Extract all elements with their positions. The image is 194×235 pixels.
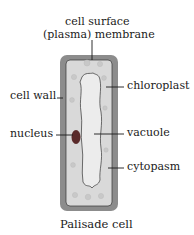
- cell-wall-label: cell wall: [10, 90, 56, 102]
- membrane-label-line1: cell surface: [65, 16, 130, 28]
- vacuole-shape: [80, 73, 102, 188]
- vacuole-label: vacuole: [127, 127, 170, 139]
- cytoplasm-label: cytopasm: [127, 161, 180, 173]
- nucleus-shape: [72, 130, 81, 144]
- nucleus-label: nucleus: [10, 128, 53, 140]
- membrane-label-line2: (plasma) membrane: [43, 29, 155, 41]
- diagram-title: Palisade cell: [60, 217, 133, 231]
- chloroplast-label: chloroplast: [127, 80, 189, 92]
